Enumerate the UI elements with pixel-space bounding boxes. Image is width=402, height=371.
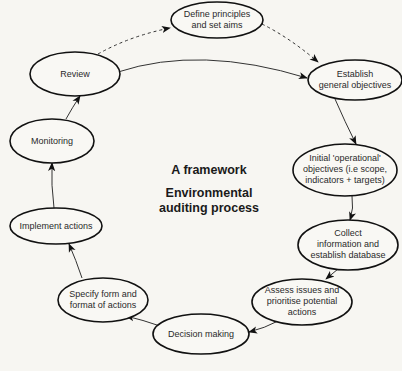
- node-label: information and: [317, 239, 379, 249]
- node-label: Collect: [334, 228, 362, 238]
- node-label: Initial 'operational': [309, 153, 381, 163]
- edge-assess-to-decision: [249, 321, 278, 332]
- node-label: Assess issues and: [265, 285, 340, 295]
- node-monitoring: Monitoring: [10, 119, 94, 163]
- edge-define-to-establish: [262, 24, 318, 62]
- edge-specify-to-implement: [69, 244, 82, 278]
- node-label: establish database: [310, 250, 385, 260]
- node-label: Define principles: [184, 9, 251, 19]
- node-label: objectives (i.e scope,: [303, 164, 387, 174]
- node-review: Review: [30, 52, 120, 96]
- node-assess-issues: Assess issues and prioritise potential a…: [252, 279, 352, 325]
- node-label: and set aims: [191, 20, 243, 30]
- node-label: Specify form and: [69, 289, 137, 299]
- node-label: general objectives: [319, 80, 392, 90]
- node-label: Monitoring: [31, 136, 73, 146]
- edge-review-to-establish: [118, 60, 307, 78]
- node-label: prioritise potential: [267, 296, 338, 306]
- diagram-title: A framework Environmental auditing proce…: [159, 163, 259, 215]
- node-establish-objectives: Establish general objectives: [308, 60, 402, 100]
- edge-monitoring-to-review: [66, 96, 80, 119]
- node-implement-actions: Implement actions: [10, 208, 102, 244]
- title-line-3: auditing process: [159, 201, 259, 215]
- node-label: Decision making: [168, 329, 234, 339]
- node-label: format of actions: [70, 300, 137, 310]
- edge-establish-to-initial: [335, 99, 356, 144]
- node-initial-operational-objectives: Initial 'operational' objectives (i.e sc…: [293, 144, 397, 196]
- edge-collect-to-assess: [326, 269, 338, 279]
- title-line-1: A framework: [171, 163, 246, 177]
- node-label: Review: [60, 69, 90, 79]
- node-specify-form: Specify form and format of actions: [58, 278, 148, 322]
- node-collect-information: Collect information and establish databa…: [298, 220, 398, 270]
- node-label: Establish: [337, 69, 374, 79]
- edge-implement-to-monitoring: [52, 163, 54, 208]
- node-label: Implement actions: [19, 221, 93, 231]
- node-label: indicators + targets): [305, 175, 384, 185]
- title-line-2: Environmental: [166, 186, 253, 200]
- node-label: actions: [288, 307, 317, 317]
- environmental-auditing-diagram: Define principles and set aims Establish…: [0, 0, 402, 371]
- node-decision-making: Decision making: [153, 314, 249, 354]
- edge-review-to-define: [98, 28, 170, 54]
- edge-initial-to-collect: [350, 196, 353, 220]
- node-define-principles: Define principles and set aims: [171, 2, 263, 38]
